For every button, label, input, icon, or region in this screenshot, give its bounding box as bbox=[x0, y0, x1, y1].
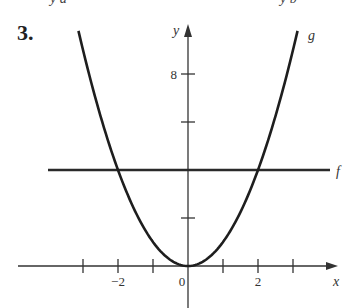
y-axis-label: y bbox=[171, 23, 180, 38]
x-tick-label: 0 bbox=[179, 274, 186, 289]
label-f: f bbox=[336, 164, 342, 179]
x-tick-label: 2 bbox=[255, 274, 262, 289]
x-tick-label: −2 bbox=[111, 274, 125, 289]
x-axis-arrow-icon bbox=[326, 262, 338, 270]
x-axis-label: x bbox=[332, 274, 340, 289]
graph: −202 x 8 y f g bbox=[0, 0, 351, 308]
y-axis-arrow-icon bbox=[184, 24, 192, 37]
y-tick-label: 8 bbox=[171, 67, 178, 82]
label-g: g bbox=[308, 28, 315, 43]
